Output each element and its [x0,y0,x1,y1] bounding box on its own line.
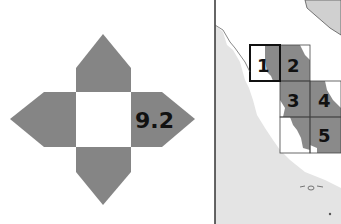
land-top-right [305,0,341,35]
bottom-arm [76,147,131,205]
center-square [76,92,131,147]
left-arm [10,92,76,147]
map-panel: 1 2 3 4 5 [205,0,341,224]
cell-label-3: 3 [287,90,300,111]
cell-label-5: 5 [318,125,331,146]
stencil-diagram: 9.2 [0,0,210,224]
map-figure: 1 2 3 4 5 [205,0,341,224]
cell-label-4: 4 [318,90,331,111]
cell-label-1: 1 [257,55,270,76]
cell-label-2: 2 [287,55,300,76]
small-island [329,213,331,215]
top-arm [76,34,131,92]
value-label: 9.2 [135,108,174,133]
cross-shape-figure: 9.2 [0,0,210,224]
